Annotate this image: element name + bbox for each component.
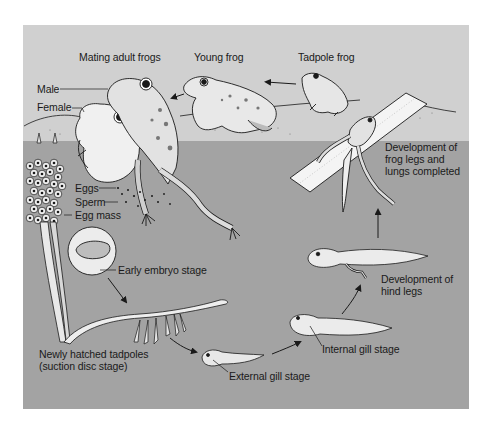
label-mating-adult-frogs: Mating adult frogs bbox=[79, 51, 161, 63]
label-development-frog-legs-lungs: Development of frog legs and lungs compl… bbox=[385, 141, 460, 177]
label-development-hind-legs: Development of hind legs bbox=[381, 273, 453, 297]
label-male: Male bbox=[37, 83, 59, 95]
label-internal-gill-stage: Internal gill stage bbox=[322, 343, 399, 355]
label-female: Female bbox=[37, 101, 71, 113]
label-tadpole-frog: Tadpole frog bbox=[298, 51, 355, 63]
label-sperm: Sperm bbox=[75, 196, 105, 208]
label-newly-hatched-tadpoles: Newly hatched tadpoles (suction disc sta… bbox=[39, 348, 148, 372]
label-early-embryo-stage: Early embryo stage bbox=[118, 264, 207, 276]
label-young-frog: Young frog bbox=[194, 51, 243, 63]
frog-life-cycle-diagram: Mating adult frogs Young frog Tadpole fr… bbox=[0, 0, 493, 430]
embryo-circle bbox=[68, 227, 116, 275]
label-eggs: Eggs bbox=[75, 182, 99, 194]
label-external-gill-stage: External gill stage bbox=[229, 370, 310, 382]
label-egg-mass: Egg mass bbox=[75, 209, 121, 221]
